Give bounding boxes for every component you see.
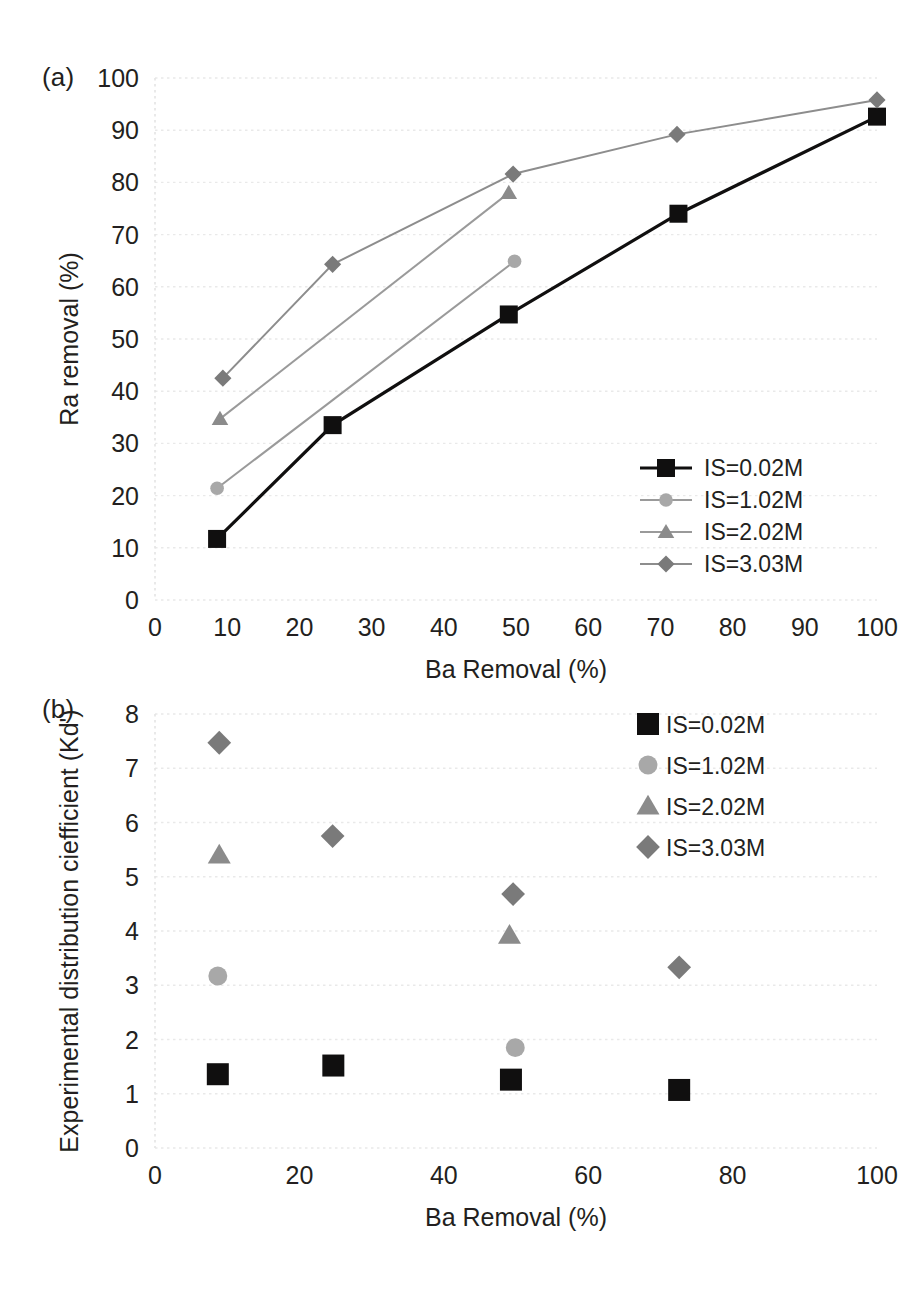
series-line <box>223 100 877 378</box>
y-tick-label: 4 <box>125 917 139 945</box>
data-point <box>498 924 521 944</box>
legend-marker <box>637 713 659 735</box>
y-tick-label: 2 <box>125 1026 139 1054</box>
y-tick-label: 7 <box>125 754 139 782</box>
data-point <box>667 955 691 979</box>
x-tick-label: 10 <box>213 613 241 641</box>
data-point <box>322 1055 344 1077</box>
x-tick-label: 20 <box>285 1161 313 1189</box>
x-tick-label: 40 <box>430 1161 458 1189</box>
y-tick-label: 70 <box>111 221 139 249</box>
y-tick-label: 8 <box>125 700 139 728</box>
data-point <box>668 126 685 143</box>
data-point <box>324 416 342 434</box>
y-tick-label: 100 <box>97 64 139 92</box>
y-tick-label: 50 <box>111 325 139 353</box>
data-point <box>500 185 517 199</box>
data-series <box>208 844 521 944</box>
legend-label: IS=0.02M <box>666 712 765 738</box>
panel-label-a: (a) <box>42 62 74 93</box>
legend-marker <box>636 835 660 859</box>
data-series <box>210 254 521 495</box>
legend-item[interactable]: IS=0.02M <box>640 455 803 481</box>
series-line <box>217 261 514 488</box>
legend-item[interactable]: IS=2.02M <box>637 794 766 820</box>
data-point <box>207 731 231 755</box>
x-tick-label: 30 <box>358 613 386 641</box>
y-tick-label: 6 <box>125 809 139 837</box>
panel-label-b: (b) <box>42 694 74 725</box>
x-tick-label: 100 <box>856 613 898 641</box>
legend-marker <box>639 756 658 775</box>
data-point <box>868 108 886 126</box>
chart-panel-b: (b) 012345678020406080100Ba Removal (%)E… <box>0 676 918 1316</box>
data-point <box>212 411 229 425</box>
y-tick-label: 0 <box>125 1134 139 1162</box>
data-point <box>500 1069 522 1091</box>
data-point <box>506 1038 525 1057</box>
data-point <box>868 91 885 108</box>
data-series <box>208 108 886 548</box>
legend-label: IS=2.02M <box>704 519 803 545</box>
legend-item[interactable]: IS=3.03M <box>636 835 765 861</box>
legend-marker <box>657 555 674 572</box>
series-line <box>220 193 509 419</box>
y-tick-label: 30 <box>111 429 139 457</box>
data-series <box>214 91 885 386</box>
data-series <box>208 967 524 1058</box>
y-tick-label: 3 <box>125 971 139 999</box>
data-point <box>208 967 227 986</box>
legend-item[interactable]: IS=1.02M <box>639 753 766 779</box>
y-axis-title-a: Ra removal (%) <box>55 252 83 426</box>
axis-labels-b: 012345678020406080100 <box>125 700 898 1189</box>
y-tick-label: 90 <box>111 116 139 144</box>
series-group-b <box>207 731 691 1101</box>
legend-label: IS=3.03M <box>666 835 765 861</box>
legend-marker <box>637 795 660 815</box>
x-tick-label: 0 <box>148 613 162 641</box>
data-point <box>668 1079 690 1101</box>
y-tick-label: 10 <box>111 534 139 562</box>
y-tick-label: 40 <box>111 377 139 405</box>
x-tick-label: 60 <box>574 1161 602 1189</box>
x-tick-label: 80 <box>719 1161 747 1189</box>
chart-panel-a: (a) 010203040506070809010001020304050607… <box>0 0 918 690</box>
x-tick-label: 90 <box>791 613 819 641</box>
data-series <box>212 185 517 425</box>
x-tick-label: 0 <box>148 1161 162 1189</box>
data-point <box>501 882 525 906</box>
chart-a-svg: 0102030405060708090100010203040506070809… <box>0 0 918 690</box>
legend-item[interactable]: IS=1.02M <box>640 487 803 513</box>
legend-marker <box>657 459 675 477</box>
legend-item[interactable]: IS=3.03M <box>640 551 803 577</box>
legend-marker <box>659 493 673 507</box>
y-tick-label: 60 <box>111 273 139 301</box>
data-point <box>210 481 224 495</box>
x-tick-label: 40 <box>430 613 458 641</box>
legend-item[interactable]: IS=0.02M <box>637 712 765 738</box>
x-axis-title-b: Ba Removal (%) <box>425 1203 607 1231</box>
data-point <box>207 1063 229 1085</box>
y-tick-label: 20 <box>111 482 139 510</box>
y-tick-label: 1 <box>125 1080 139 1108</box>
data-point <box>208 844 231 864</box>
data-point <box>500 305 518 323</box>
y-axis-title-b: Experimental distribution ciefficient (K… <box>55 709 83 1152</box>
x-tick-label: 70 <box>646 613 674 641</box>
y-tick-label: 0 <box>125 586 139 614</box>
figure-page: (a) 010203040506070809010001020304050607… <box>0 0 918 1316</box>
legend-item[interactable]: IS=2.02M <box>640 519 803 545</box>
legend-a: IS=0.02MIS=1.02MIS=2.02MIS=3.03M <box>640 455 803 577</box>
x-tick-label: 50 <box>502 613 530 641</box>
data-point <box>208 530 226 548</box>
data-point <box>669 205 687 223</box>
x-tick-label: 20 <box>285 613 313 641</box>
y-tick-label: 5 <box>125 863 139 891</box>
data-point <box>505 165 522 182</box>
legend-label: IS=0.02M <box>704 455 803 481</box>
x-tick-label: 80 <box>719 613 747 641</box>
legend-marker <box>658 524 675 538</box>
legend-label: IS=3.03M <box>704 551 803 577</box>
y-tick-label: 80 <box>111 168 139 196</box>
data-point <box>321 824 345 848</box>
